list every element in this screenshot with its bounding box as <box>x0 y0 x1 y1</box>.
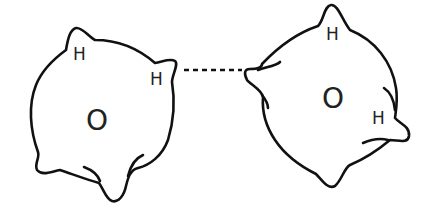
right-h1-label: H <box>326 24 339 44</box>
left-h2-label: H <box>150 69 163 89</box>
right-oxygen-label: O <box>322 82 344 115</box>
left-lone-pair-curl-right <box>128 155 143 176</box>
right-water-molecule: H H O <box>245 5 409 187</box>
right-h-lobe-curl-top <box>384 88 395 110</box>
right-h2-label: H <box>372 108 385 128</box>
left-oxygen-label: O <box>86 104 108 137</box>
water-hydrogen-bond-diagram: H H O H H O <box>0 0 425 218</box>
right-h-lobe-curl-bottom <box>363 139 388 143</box>
left-h1-label: H <box>73 44 86 64</box>
left-water-molecule: H H O <box>31 28 176 201</box>
